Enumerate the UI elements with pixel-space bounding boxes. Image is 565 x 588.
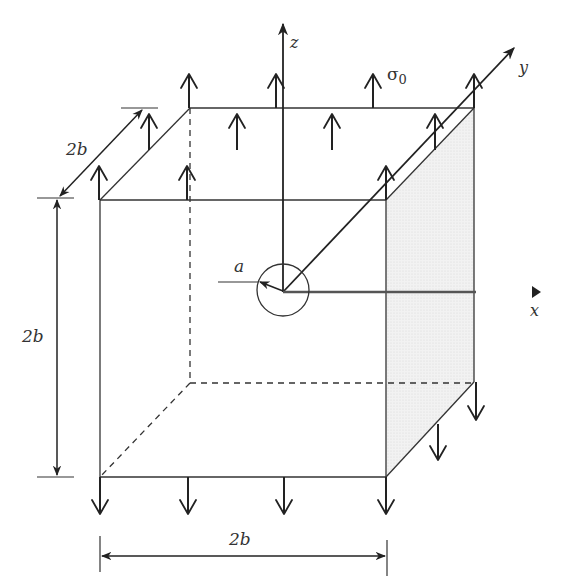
- cube-void-diagram: z y x σ0 a 2b 2b 2b: [0, 0, 565, 588]
- depth-dimension-label: 2b: [65, 139, 88, 159]
- radius-label: a: [234, 256, 244, 276]
- stress-symbol: σ: [387, 64, 399, 84]
- z-axis-label: z: [289, 33, 299, 52]
- height-dimension-label: 2b: [21, 326, 44, 346]
- stress-label: σ0: [387, 64, 407, 87]
- width-dimension-label: 2b: [228, 529, 251, 549]
- stress-subscript: 0: [399, 72, 407, 87]
- spherical-void: [218, 264, 309, 316]
- x-axis-label: x: [530, 301, 539, 320]
- y-axis-label: y: [518, 58, 529, 77]
- x-axis-arrowhead-icon: [532, 286, 541, 298]
